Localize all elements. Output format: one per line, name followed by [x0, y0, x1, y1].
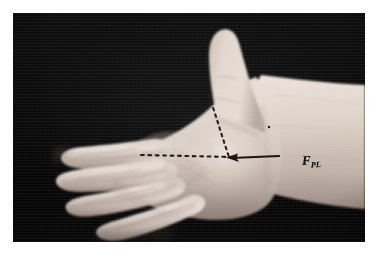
page-canvas: FPL — [0, 0, 379, 259]
photograph: FPL — [13, 13, 365, 242]
photo-vignette — [13, 13, 365, 242]
